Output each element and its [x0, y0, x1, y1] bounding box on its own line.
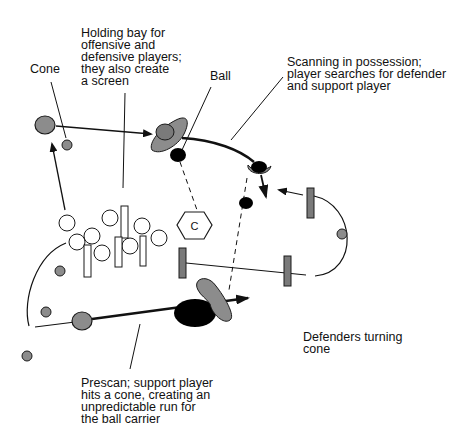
hexagon-letter: C: [191, 220, 199, 232]
defenders-turning-cone: [337, 229, 347, 239]
dashed-pass-line-2: [229, 178, 247, 290]
label-defenders-turning: Defenders turning cone: [303, 331, 402, 355]
label-cone: Cone: [30, 63, 60, 75]
holding-bay-leader-line: [123, 93, 125, 188]
scanning-player: [248, 161, 271, 173]
defender-marker-bottom-right: [284, 256, 291, 286]
scanning-path: [182, 138, 254, 162]
label-scanning: Scanning in possession; player searches …: [287, 56, 446, 92]
support-run-arrow-left: [52, 144, 65, 210]
dashed-pass-line-1: [180, 162, 197, 210]
support-player-bottom: [72, 312, 92, 330]
ball-mid: [239, 197, 253, 209]
scanning-leader-line: [231, 77, 283, 140]
holding-bay: [59, 206, 167, 277]
defender-marker-top-right: [307, 188, 314, 218]
label-ball: Ball: [210, 70, 231, 82]
cone-marker: [62, 140, 72, 150]
ball-carrier-top: [151, 118, 187, 152]
ball-top: [170, 148, 186, 162]
cone-left-1: [55, 266, 65, 276]
label-prescan: Prescan; support player hits a cone, cre…: [81, 377, 213, 425]
scanning-run-arrow: [261, 175, 266, 197]
defender-marker-left: [179, 248, 186, 278]
prescan-run-line-start: [35, 322, 75, 327]
defender-run-arrow: [279, 190, 303, 195]
prescan-leader-line: [130, 324, 140, 369]
support-player-top-left: [35, 116, 55, 134]
label-holding-bay: Holding bay for offensive and defensive …: [81, 27, 182, 87]
pass-arrow-top: [56, 126, 151, 134]
cone-left-2: [41, 307, 51, 317]
cone-left-3: [22, 351, 32, 361]
